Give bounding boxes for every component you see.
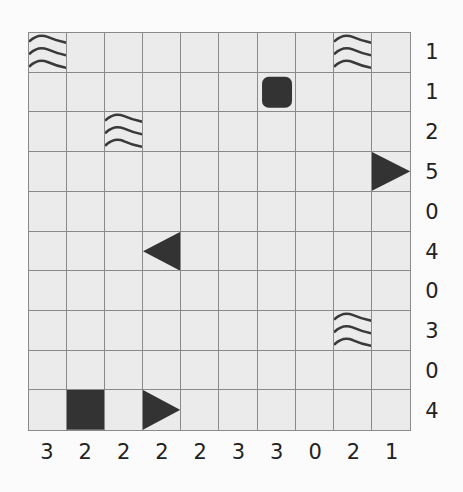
grid-cell-r1-c5[interactable] (219, 73, 257, 113)
grid-cell-r2-c0[interactable] (29, 112, 67, 152)
grid-cell-r3-c8[interactable] (334, 152, 372, 192)
grid-cell-r4-c7[interactable] (296, 192, 334, 232)
grid-cell-r9-c8[interactable] (334, 390, 372, 430)
grid-cell-r4-c4[interactable] (181, 192, 219, 232)
grid-cell-r5-c2[interactable] (105, 232, 143, 272)
grid-cell-r6-c2[interactable] (105, 271, 143, 311)
grid-cell-r0-c6[interactable] (258, 33, 296, 73)
grid-cell-r5-c5[interactable] (219, 232, 257, 272)
grid-cell-r4-c1[interactable] (67, 192, 105, 232)
grid-cell-r9-c2[interactable] (105, 390, 143, 430)
grid-cell-r7-c6[interactable] (258, 311, 296, 351)
grid-cell-r1-c4[interactable] (181, 73, 219, 113)
grid-cell-r1-c2[interactable] (105, 73, 143, 113)
grid-cell-r8-c6[interactable] (258, 351, 296, 391)
grid-cell-r9-c5[interactable] (219, 390, 257, 430)
grid-cell-r0-c3[interactable] (143, 33, 181, 73)
grid-cell-r2-c2[interactable] (105, 112, 143, 152)
grid-cell-r5-c0[interactable] (29, 232, 67, 272)
grid-cell-r5-c4[interactable] (181, 232, 219, 272)
grid-cell-r3-c5[interactable] (219, 152, 257, 192)
grid-cell-r9-c1[interactable] (67, 390, 105, 430)
grid-cell-r3-c2[interactable] (105, 152, 143, 192)
grid-cell-r6-c9[interactable] (372, 271, 410, 311)
grid-cell-r0-c1[interactable] (67, 33, 105, 73)
grid-cell-r1-c3[interactable] (143, 73, 181, 113)
grid-cell-r6-c5[interactable] (219, 271, 257, 311)
grid-cell-r7-c5[interactable] (219, 311, 257, 351)
grid-cell-r1-c0[interactable] (29, 73, 67, 113)
grid-cell-r7-c8[interactable] (334, 311, 372, 351)
grid-cell-r3-c0[interactable] (29, 152, 67, 192)
grid-cell-r6-c6[interactable] (258, 271, 296, 311)
grid-cell-r3-c4[interactable] (181, 152, 219, 192)
grid-cell-r5-c8[interactable] (334, 232, 372, 272)
grid-cell-r1-c7[interactable] (296, 73, 334, 113)
grid-cell-r0-c0[interactable] (29, 33, 67, 73)
grid-cell-r2-c4[interactable] (181, 112, 219, 152)
grid-cell-r8-c2[interactable] (105, 351, 143, 391)
grid-cell-r5-c7[interactable] (296, 232, 334, 272)
grid-cell-r4-c5[interactable] (219, 192, 257, 232)
grid-cell-r0-c5[interactable] (219, 33, 257, 73)
grid-cell-r7-c0[interactable] (29, 311, 67, 351)
grid-cell-r1-c6[interactable] (258, 73, 296, 113)
grid-cell-r8-c7[interactable] (296, 351, 334, 391)
grid-cell-r2-c9[interactable] (372, 112, 410, 152)
grid-cell-r5-c3[interactable] (143, 232, 181, 272)
grid-cell-r3-c1[interactable] (67, 152, 105, 192)
grid-cell-r5-c1[interactable] (67, 232, 105, 272)
grid-cell-r0-c7[interactable] (296, 33, 334, 73)
grid-cell-r8-c3[interactable] (143, 351, 181, 391)
grid-cell-r4-c6[interactable] (258, 192, 296, 232)
grid-cell-r7-c1[interactable] (67, 311, 105, 351)
grid-cell-r0-c9[interactable] (372, 33, 410, 73)
grid-cell-r3-c3[interactable] (143, 152, 181, 192)
grid-cell-r4-c2[interactable] (105, 192, 143, 232)
grid-cell-r1-c1[interactable] (67, 73, 105, 113)
grid-cell-r2-c7[interactable] (296, 112, 334, 152)
grid-cell-r8-c1[interactable] (67, 351, 105, 391)
grid-cell-r6-c7[interactable] (296, 271, 334, 311)
grid-cell-r9-c6[interactable] (258, 390, 296, 430)
grid-cell-r8-c9[interactable] (372, 351, 410, 391)
grid-cell-r2-c6[interactable] (258, 112, 296, 152)
grid-cell-r0-c4[interactable] (181, 33, 219, 73)
grid-cell-r6-c4[interactable] (181, 271, 219, 311)
grid-cell-r5-c6[interactable] (258, 232, 296, 272)
grid-cell-r6-c8[interactable] (334, 271, 372, 311)
grid-cell-r2-c3[interactable] (143, 112, 181, 152)
grid-cell-r7-c2[interactable] (105, 311, 143, 351)
grid-cell-r7-c9[interactable] (372, 311, 410, 351)
grid-cell-r3-c7[interactable] (296, 152, 334, 192)
grid-cell-r3-c9[interactable] (372, 152, 410, 192)
grid-cell-r8-c0[interactable] (29, 351, 67, 391)
grid-cell-r9-c9[interactable] (372, 390, 410, 430)
grid-cell-r7-c7[interactable] (296, 311, 334, 351)
grid-cell-r2-c1[interactable] (67, 112, 105, 152)
grid-cell-r3-c6[interactable] (258, 152, 296, 192)
grid-cell-r8-c4[interactable] (181, 351, 219, 391)
grid-cell-r6-c1[interactable] (67, 271, 105, 311)
grid-cell-r9-c0[interactable] (29, 390, 67, 430)
grid-cell-r7-c3[interactable] (143, 311, 181, 351)
grid-cell-r2-c5[interactable] (219, 112, 257, 152)
grid-cell-r0-c8[interactable] (334, 33, 372, 73)
grid-cell-r4-c8[interactable] (334, 192, 372, 232)
grid-cell-r6-c3[interactable] (143, 271, 181, 311)
grid-cell-r5-c9[interactable] (372, 232, 410, 272)
grid-cell-r4-c3[interactable] (143, 192, 181, 232)
grid-cell-r8-c8[interactable] (334, 351, 372, 391)
grid-cell-r9-c4[interactable] (181, 390, 219, 430)
grid-cell-r2-c8[interactable] (334, 112, 372, 152)
grid-cell-r7-c4[interactable] (181, 311, 219, 351)
grid-cell-r8-c5[interactable] (219, 351, 257, 391)
grid-cell-r1-c9[interactable] (372, 73, 410, 113)
grid-cell-r6-c0[interactable] (29, 271, 67, 311)
grid-cell-r4-c9[interactable] (372, 192, 410, 232)
grid-cell-r0-c2[interactable] (105, 33, 143, 73)
grid-cell-r4-c0[interactable] (29, 192, 67, 232)
grid-cell-r9-c7[interactable] (296, 390, 334, 430)
grid-cell-r1-c8[interactable] (334, 73, 372, 113)
grid-cell-r9-c3[interactable] (143, 390, 181, 430)
